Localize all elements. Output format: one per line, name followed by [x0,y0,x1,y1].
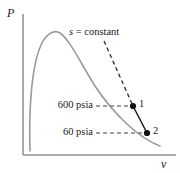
x-axis-label: v [161,158,166,170]
state-point-1 [130,103,136,109]
state-point-2-label: 2 [153,126,158,137]
pressure-label-60: 60 psia [43,127,93,138]
isentropic-label-rest: = constant [73,26,119,37]
isentropic-line-label: s = constant [69,27,119,38]
pv-diagram-figure: P v s = constant 600 psia 60 psia 1 2 [0,0,180,173]
state-point-1-label: 1 [139,99,144,110]
process-line-1-to-2 [133,106,147,133]
state-point-2 [144,130,150,136]
isentropic-line [104,41,133,106]
pressure-label-600: 600 psia [43,100,93,111]
y-axis-label: P [7,7,14,19]
